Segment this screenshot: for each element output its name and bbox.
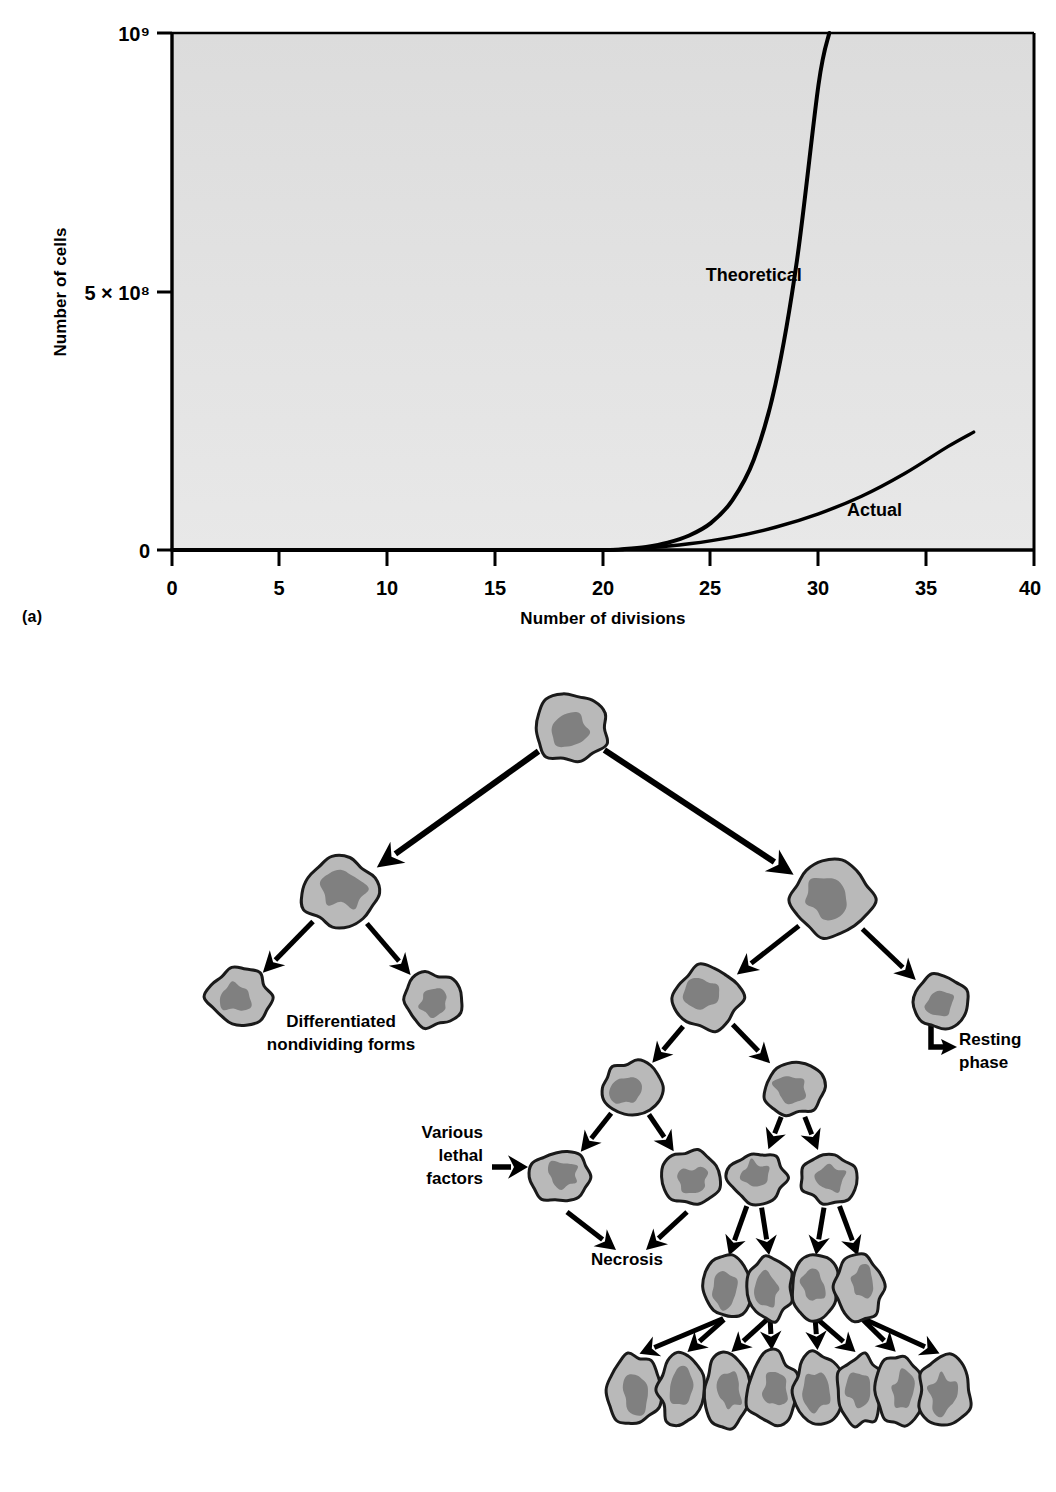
y-axis-ticks bbox=[157, 33, 172, 550]
svg-text:phase: phase bbox=[959, 1053, 1008, 1072]
cell-row8-1 bbox=[656, 1352, 705, 1425]
cell-row8-6 bbox=[875, 1356, 925, 1426]
arrow-right-to-mid bbox=[737, 926, 799, 975]
svg-text:Various: Various bbox=[422, 1123, 483, 1142]
svg-text:5: 5 bbox=[273, 577, 284, 599]
series-label-actual: Actual bbox=[847, 500, 902, 520]
label-necrosis: Necrosis bbox=[591, 1250, 663, 1269]
cell-left-1 bbox=[301, 855, 380, 928]
arrow-midl-to-lethal1 bbox=[581, 1113, 611, 1152]
x-tick-labels: 0 5 10 15 20 25 30 35 40 bbox=[166, 577, 1041, 599]
label-lethal-factors: Various lethal factors bbox=[422, 1123, 483, 1188]
arrow-prolif-row4-1-1 bbox=[840, 1206, 862, 1255]
cell-mid-r bbox=[764, 1062, 826, 1115]
svg-text:0: 0 bbox=[166, 577, 177, 599]
cell-lethal-1 bbox=[529, 1151, 591, 1200]
cell-row4-3 bbox=[833, 1254, 885, 1322]
y-tick-label-zero: 0 bbox=[139, 540, 150, 562]
cell-layer bbox=[204, 694, 971, 1430]
arrow-row4-row8-1a bbox=[731, 1320, 767, 1352]
panel-a-chart: 10⁹ 5 × 10⁸ 0 0 5 10 15 20 25 30 35 40 bbox=[0, 0, 1056, 650]
svg-text:factors: factors bbox=[426, 1169, 483, 1188]
svg-text:Differentiated: Differentiated bbox=[286, 1012, 396, 1031]
svg-text:20: 20 bbox=[592, 577, 614, 599]
arrow-root-to-left bbox=[377, 751, 539, 867]
cell-left-diff-a bbox=[204, 967, 273, 1026]
cell-row8-7 bbox=[919, 1354, 971, 1425]
cell-left-diff-b bbox=[404, 971, 462, 1028]
arrow-left-to-diff-a bbox=[263, 922, 313, 973]
svg-text:nondividing forms: nondividing forms bbox=[267, 1035, 415, 1054]
x-axis-title: Number of divisions bbox=[520, 609, 685, 628]
cell-row4-1 bbox=[747, 1256, 792, 1323]
cell-row8-3 bbox=[746, 1349, 799, 1426]
arrow-prolif-row4-1-0 bbox=[809, 1208, 830, 1256]
panel-a-letter: (a) bbox=[22, 608, 42, 626]
panel-b-diagram: Differentiated nondividing forms Resting… bbox=[0, 650, 1056, 1492]
arrow-midl-to-lethal2 bbox=[649, 1115, 674, 1152]
y-tick-label-top: 10⁹ bbox=[118, 23, 150, 45]
svg-text:15: 15 bbox=[484, 577, 506, 599]
svg-text:30: 30 bbox=[807, 577, 829, 599]
cell-row8-2 bbox=[704, 1352, 750, 1429]
arrow-midr-to-prolif1 bbox=[766, 1117, 786, 1149]
growth-curve-chart: 10⁹ 5 × 10⁸ 0 0 5 10 15 20 25 30 35 40 bbox=[0, 0, 1056, 650]
cell-right-1 bbox=[789, 859, 876, 939]
svg-text:10: 10 bbox=[376, 577, 398, 599]
arrow-left-to-diff-b bbox=[367, 924, 411, 975]
cell-lethal-2 bbox=[662, 1149, 721, 1204]
arrow-prolif-row4-0-1 bbox=[756, 1208, 777, 1256]
arrow-mid-to-midr bbox=[733, 1025, 770, 1064]
arrow-lethal-factors bbox=[492, 1155, 528, 1179]
arrow-lethal1-to-necrosis bbox=[567, 1212, 616, 1250]
arrow-row4-row8-0a bbox=[640, 1319, 724, 1357]
cell-mid-l bbox=[602, 1060, 663, 1115]
cell-prolif-1 bbox=[726, 1154, 789, 1205]
arrow-midr-to-prolif2 bbox=[801, 1117, 821, 1150]
cell-row8-4 bbox=[792, 1351, 842, 1425]
arrow-root-to-right bbox=[604, 750, 793, 875]
cell-prolif-2 bbox=[801, 1154, 857, 1204]
y-axis-title: Number of cells bbox=[51, 227, 70, 356]
cell-row4-2 bbox=[792, 1255, 838, 1322]
label-resting-phase: Resting phase bbox=[959, 1030, 1021, 1072]
svg-text:25: 25 bbox=[699, 577, 721, 599]
arrow-lethal2-to-necrosis bbox=[646, 1212, 687, 1250]
cell-lineage-diagram: Differentiated nondividing forms Resting… bbox=[0, 650, 1056, 1492]
svg-text:Resting: Resting bbox=[959, 1030, 1021, 1049]
svg-text:35: 35 bbox=[915, 577, 937, 599]
series-label-theoretical: Theoretical bbox=[706, 265, 802, 285]
arrow-prolif-row4-0-0 bbox=[725, 1206, 746, 1255]
svg-text:lethal: lethal bbox=[439, 1146, 483, 1165]
cell-resting bbox=[913, 973, 968, 1029]
cell-root bbox=[536, 694, 608, 762]
x-axis-ticks bbox=[172, 550, 1034, 566]
cell-row8-0 bbox=[606, 1353, 662, 1424]
arrow-row4-row8-3b bbox=[864, 1319, 940, 1356]
svg-text:40: 40 bbox=[1019, 577, 1041, 599]
cell-right-mid bbox=[672, 964, 745, 1032]
figure-root: 10⁹ 5 × 10⁸ 0 0 5 10 15 20 25 30 35 40 bbox=[0, 0, 1056, 1492]
y-tick-label-mid: 5 × 10⁸ bbox=[84, 282, 150, 304]
label-differentiated: Differentiated nondividing forms bbox=[267, 1012, 415, 1054]
arrow-right-to-resting bbox=[862, 929, 915, 980]
arrow-mid-to-midl bbox=[652, 1026, 683, 1063]
